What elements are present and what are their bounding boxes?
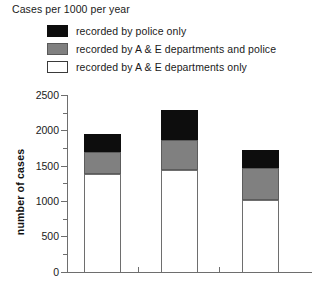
y-tick-label-1500: 1500	[36, 160, 59, 172]
y-tick-1000	[61, 201, 68, 202]
bar-3-segment-ae-only[interactable]	[242, 200, 279, 272]
chart-figure: Cases per 1000 per year recorded by poli…	[0, 0, 318, 284]
x-tick-separator-2	[219, 267, 220, 273]
plot-area: 0 500 1000 1500 2000 2500	[0, 0, 318, 284]
x-axis-line	[67, 272, 312, 273]
bar-1-segment-police-only[interactable]	[84, 134, 121, 152]
y-tick-minor-1250	[63, 183, 68, 184]
bar-2-segment-ae-and-police[interactable]	[161, 140, 198, 170]
bar-1-segment-ae-and-police[interactable]	[84, 152, 121, 174]
y-tick-0	[61, 272, 68, 273]
y-tick-label-2000: 2000	[36, 124, 59, 136]
y-tick-label-2500: 2500	[36, 89, 59, 101]
bar-3-segment-police-only[interactable]	[242, 150, 279, 168]
y-tick-1500	[61, 166, 68, 167]
y-axis-line	[67, 95, 68, 273]
bar-3-segment-ae-and-police[interactable]	[242, 168, 279, 200]
y-tick-label-500: 500	[41, 230, 59, 242]
bar-1-segment-ae-only[interactable]	[84, 174, 121, 272]
y-tick-2000	[61, 130, 68, 131]
x-tick-separator-1	[138, 267, 139, 273]
bar-2-segment-police-only[interactable]	[161, 110, 198, 140]
y-tick-label-1000: 1000	[36, 195, 59, 207]
y-axis-title: number of cases	[14, 132, 26, 252]
y-tick-label-0: 0	[53, 266, 59, 278]
y-tick-500	[61, 236, 68, 237]
y-tick-minor-2250	[63, 113, 68, 114]
bar-2-segment-ae-only[interactable]	[161, 170, 198, 272]
y-tick-minor-250	[63, 254, 68, 255]
y-tick-minor-750	[63, 219, 68, 220]
y-tick-2500	[61, 95, 68, 96]
y-tick-minor-1750	[63, 148, 68, 149]
